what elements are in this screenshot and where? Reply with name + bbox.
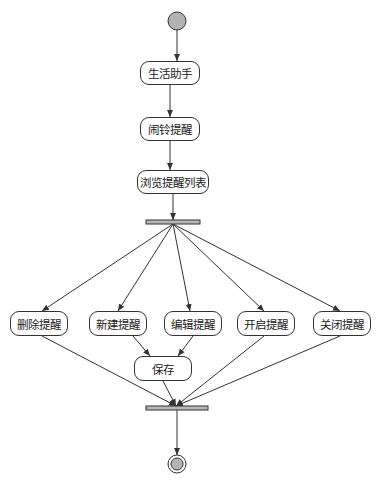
- activity-edit-reminder: 编辑提醒: [164, 311, 222, 336]
- edge-fork-to-enable_reminder: [173, 224, 264, 311]
- edge-disable_reminder-to-join: [176, 336, 340, 406]
- activity-browse-list: 浏览提醒列表: [137, 170, 209, 194]
- edge-new_reminder-to-save: [133, 336, 150, 356]
- activity-delete-reminder: 删除提醒: [10, 311, 68, 336]
- activity-life-assistant: 生活助手: [140, 61, 200, 85]
- edge-fork-to-disable_reminder: [173, 224, 340, 311]
- edge-fork-to-delete_reminder: [42, 224, 173, 311]
- final-node-inner: [171, 458, 183, 470]
- activity-enable-reminder: 开启提醒: [237, 311, 295, 336]
- initial-node: [168, 12, 186, 30]
- activity-alarm-reminder: 闹铃提醒: [140, 117, 200, 141]
- activity-disable-reminder: 关闭提醒: [313, 311, 371, 336]
- edge-fork-to-new_reminder: [118, 224, 173, 311]
- activity-new-reminder: 新建提醒: [89, 311, 147, 336]
- fork-bar: [146, 220, 200, 224]
- activity-save: 保存: [134, 356, 192, 381]
- edge-fork-to-edit_reminder: [173, 224, 190, 311]
- join-bar: [146, 406, 208, 410]
- edges: [42, 30, 340, 455]
- edge-edit_reminder-to-save: [178, 336, 193, 356]
